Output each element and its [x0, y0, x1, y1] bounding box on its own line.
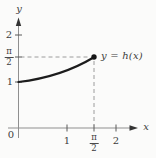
- y-axis-arrow-icon: [16, 18, 21, 27]
- plot-canvas: [0, 0, 156, 158]
- y-tick-label-2: 2: [6, 30, 12, 40]
- curve-annotation: y = h(x): [101, 51, 143, 61]
- function-curve: [19, 58, 94, 83]
- function-graph-figure: y x 2 π 2 1 0 1 π 2 2 y = h(x): [0, 0, 156, 158]
- pi-numerator: π: [90, 133, 99, 144]
- pi-denominator: 2: [91, 144, 96, 154]
- x-tick-label-1: 1: [64, 136, 70, 146]
- x-tick-label-pi-over-2: π 2: [90, 133, 99, 153]
- x-axis-arrow-icon: [130, 125, 139, 130]
- y-tick-label-1: 1: [7, 77, 13, 87]
- x-tick-label-2: 2: [113, 136, 119, 146]
- origin-label: 0: [8, 130, 14, 140]
- x-axis-label: x: [143, 122, 149, 132]
- y-axis-label: y: [16, 4, 22, 14]
- endpoint-dot: [91, 54, 96, 59]
- pi-numerator: π: [5, 47, 14, 58]
- y-tick-label-pi-over-2: π 2: [5, 47, 14, 67]
- pi-denominator: 2: [6, 58, 11, 68]
